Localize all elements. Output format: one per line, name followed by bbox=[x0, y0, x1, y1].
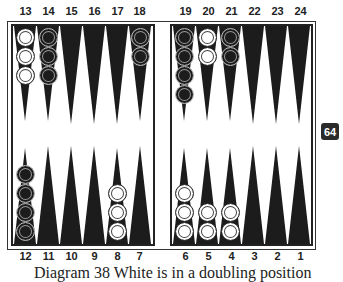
white-checker[interactable] bbox=[108, 184, 127, 203]
point-7[interactable] bbox=[129, 146, 151, 244]
black-checker[interactable] bbox=[39, 47, 58, 66]
point-label-7: 7 bbox=[128, 250, 151, 262]
point-label-22: 22 bbox=[243, 5, 266, 17]
white-checker[interactable] bbox=[175, 222, 194, 241]
doubling-cube[interactable]: 64 bbox=[321, 123, 339, 140]
point-label-12: 12 bbox=[14, 250, 37, 262]
point-label-21: 21 bbox=[220, 5, 243, 17]
point-16[interactable] bbox=[83, 26, 105, 124]
black-checker[interactable] bbox=[39, 66, 58, 85]
point-label-20: 20 bbox=[197, 5, 220, 17]
white-checker[interactable] bbox=[221, 203, 240, 222]
black-checker[interactable] bbox=[221, 28, 240, 47]
white-checker[interactable] bbox=[175, 184, 194, 203]
point-label-9: 9 bbox=[83, 250, 106, 262]
point-24[interactable] bbox=[288, 26, 310, 124]
white-checker[interactable] bbox=[108, 222, 127, 241]
bottom-point-labels: 12 11 10 9 8 7 6 5 4 3 2 1 bbox=[0, 250, 343, 264]
point-label-23: 23 bbox=[266, 5, 289, 17]
black-checker[interactable] bbox=[39, 28, 58, 47]
black-checker[interactable] bbox=[175, 85, 194, 104]
point-label-3: 3 bbox=[243, 250, 266, 262]
black-checker[interactable] bbox=[175, 47, 194, 66]
white-checker[interactable] bbox=[16, 28, 35, 47]
point-9[interactable] bbox=[83, 146, 105, 244]
point-1[interactable] bbox=[288, 146, 310, 244]
white-checker[interactable] bbox=[221, 222, 240, 241]
point-3[interactable] bbox=[242, 146, 264, 244]
point-label-15: 15 bbox=[60, 5, 83, 17]
point-2[interactable] bbox=[265, 146, 287, 244]
point-label-1: 1 bbox=[289, 250, 312, 262]
white-checker[interactable] bbox=[16, 66, 35, 85]
point-label-18: 18 bbox=[128, 5, 151, 17]
point-11[interactable] bbox=[37, 146, 59, 244]
point-10[interactable] bbox=[60, 146, 82, 244]
point-label-5: 5 bbox=[197, 250, 220, 262]
black-checker[interactable] bbox=[16, 203, 35, 222]
white-checker[interactable] bbox=[108, 203, 127, 222]
point-label-14: 14 bbox=[37, 5, 60, 17]
black-checker[interactable] bbox=[131, 28, 150, 47]
white-checker[interactable] bbox=[198, 203, 217, 222]
board-left-half bbox=[11, 24, 155, 246]
point-label-11: 11 bbox=[37, 250, 60, 262]
point-label-10: 10 bbox=[60, 250, 83, 262]
point-22[interactable] bbox=[242, 26, 264, 124]
black-checker[interactable] bbox=[221, 47, 240, 66]
point-label-4: 4 bbox=[220, 250, 243, 262]
black-checker[interactable] bbox=[131, 47, 150, 66]
point-label-24: 24 bbox=[289, 5, 312, 17]
point-label-16: 16 bbox=[83, 5, 106, 17]
board-right-half bbox=[170, 24, 313, 246]
point-label-2: 2 bbox=[266, 250, 289, 262]
point-17[interactable] bbox=[106, 26, 128, 124]
point-label-6: 6 bbox=[174, 250, 197, 262]
white-checker[interactable] bbox=[16, 47, 35, 66]
point-23[interactable] bbox=[265, 26, 287, 124]
point-label-17: 17 bbox=[106, 5, 129, 17]
point-label-8: 8 bbox=[106, 250, 129, 262]
white-checker[interactable] bbox=[175, 203, 194, 222]
black-checker[interactable] bbox=[175, 66, 194, 85]
top-point-labels: 13 14 15 16 17 18 19 20 21 22 23 24 bbox=[0, 5, 343, 19]
point-label-19: 19 bbox=[174, 5, 197, 17]
board-bar bbox=[155, 24, 170, 246]
black-checker[interactable] bbox=[16, 184, 35, 203]
white-checker[interactable] bbox=[198, 222, 217, 241]
diagram-caption: Diagram 38 White is in a doubling positi… bbox=[34, 264, 311, 282]
white-checker[interactable] bbox=[198, 47, 217, 66]
black-checker[interactable] bbox=[16, 222, 35, 241]
point-15[interactable] bbox=[60, 26, 82, 124]
white-checker[interactable] bbox=[198, 28, 217, 47]
point-label-13: 13 bbox=[14, 5, 37, 17]
black-checker[interactable] bbox=[175, 28, 194, 47]
black-checker[interactable] bbox=[16, 165, 35, 184]
